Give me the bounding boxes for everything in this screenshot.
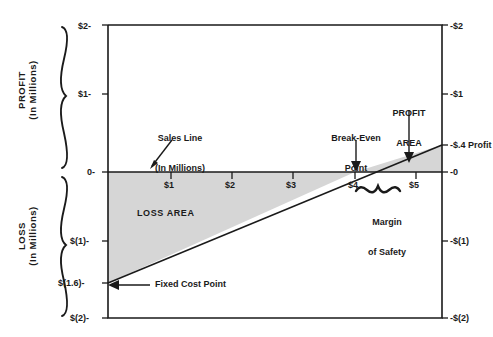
loss-word: LOSS xyxy=(16,222,27,250)
profit-word: PROFIT xyxy=(16,71,27,109)
loss-units: (In Millions) xyxy=(27,206,38,265)
right-tick-marks xyxy=(442,25,448,318)
x-tick-5: $5 xyxy=(409,180,419,190)
sales-line-annotation: Sales Line (In Millions) xyxy=(140,113,220,194)
fixed-cost-annotation: Fixed Cost Point xyxy=(155,279,226,289)
loss-axis-label-text: LOSS (In Millions) xyxy=(16,172,38,300)
y-tick-left-2: $2- xyxy=(78,21,91,31)
break-even-label-line2: Point xyxy=(316,163,396,173)
y-tick-right-neg2: -$(2) xyxy=(450,313,469,323)
y-tick-right-profit: -$.4 Profit xyxy=(450,140,492,150)
y-tick-right-0: -0 xyxy=(450,167,458,177)
loss-axis-label: LOSS (In Millions) xyxy=(16,172,38,300)
y-tick-left-1: $1- xyxy=(78,89,91,99)
margin-of-safety-annotation: Margin of Safety xyxy=(347,197,427,278)
margin-label-line2: of Safety xyxy=(347,247,427,257)
profit-units: (In Millions) xyxy=(27,60,38,119)
y-tick-right-1: -$1 xyxy=(450,89,463,99)
x-tick-3: $3 xyxy=(286,180,296,190)
x-tick-2: $2 xyxy=(225,180,235,190)
break-even-chart: $2- $1- 0- $(1)- $(1.6)- $(2)- -$2 -$1 -… xyxy=(0,0,493,337)
y-tick-right-2: -$2 xyxy=(450,21,463,31)
y-tick-left-neg1-6: $(1.6)- xyxy=(58,278,85,288)
fixed-cost-arrow xyxy=(108,280,150,290)
profit-axis-label: Sales Line (In Millions) PROFIT (In Mill… xyxy=(16,25,38,155)
break-even-label-line1: Break-Even xyxy=(316,133,396,143)
loss-brace xyxy=(61,177,67,316)
loss-axis-label-wrap: LOSS (In Millions) xyxy=(16,300,144,322)
profit-brace xyxy=(61,27,67,168)
y-tick-left-neg1: $(1)- xyxy=(70,236,89,246)
profit-axis-label-text: PROFIT (In Millions) xyxy=(16,25,38,155)
break-even-annotation: Break-Even Point xyxy=(316,113,396,194)
y-tick-right-neg1: -$(1) xyxy=(450,236,469,246)
margin-label-line1: Margin xyxy=(347,217,427,227)
sales-line-label-line2: (In Millions) xyxy=(140,163,220,173)
loss-area-label: LOSS AREA xyxy=(137,208,195,218)
sales-line-label-line1: Sales Line xyxy=(140,133,220,143)
